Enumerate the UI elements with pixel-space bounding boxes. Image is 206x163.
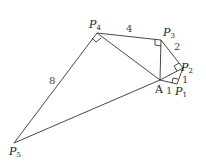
right-angle-p2 — [174, 63, 179, 71]
segment-a-p5 — [14, 80, 160, 143]
label-a: A — [155, 84, 163, 95]
length-p3-p4: 4 — [126, 24, 132, 34]
right-angle-p1 — [172, 78, 178, 83]
length-p4-p5: 8 — [49, 76, 55, 86]
label-p1: P1 — [175, 86, 187, 99]
label-p4: P4 — [89, 19, 101, 32]
length-p2-p3: 2 — [174, 42, 180, 52]
segment-p4-p5 — [14, 33, 97, 143]
label-p5: P5 — [9, 146, 21, 159]
length-p1-p2: 1 — [182, 75, 188, 85]
length-a-p1: 1 — [166, 86, 172, 96]
right-angle-p4 — [92, 38, 101, 42]
geometry-diagram: P4 P3 P2 P1 A P5 4 2 1 1 8 — [0, 0, 206, 163]
diagram-lines — [0, 0, 206, 163]
segment-p3-p4 — [97, 33, 161, 40]
label-p3: P3 — [163, 27, 175, 40]
segment-a-p4 — [97, 33, 160, 80]
